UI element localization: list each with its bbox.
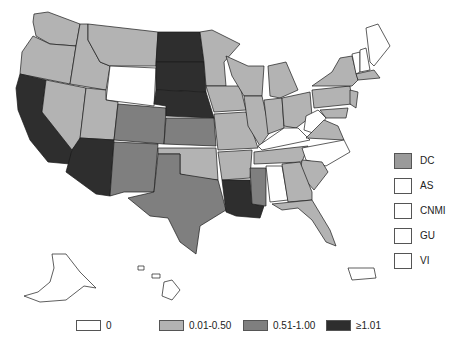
state-new-jersey: [350, 90, 358, 108]
state-montana: [88, 24, 158, 66]
legend-item-high: ≥1.01: [326, 320, 381, 331]
state-wyoming: [106, 66, 156, 106]
legend-swatch: [76, 320, 101, 331]
state-michigan: [268, 62, 298, 98]
legend-label: 0.51-1.00: [273, 320, 315, 331]
legend-swatch: [326, 320, 351, 331]
state-north-dakota: [156, 32, 204, 62]
territory-cnmi: CNMI: [394, 198, 446, 223]
state-maine: [366, 24, 390, 66]
legend-label: ≥1.01: [356, 320, 381, 331]
territory-swatch: [394, 253, 412, 269]
map-legend: 0 0.01-0.50 0.51-1.00 ≥1.01: [0, 320, 454, 340]
legend-swatch: [159, 320, 184, 331]
state-mississippi: [250, 168, 266, 206]
state-kansas: [164, 118, 216, 146]
state-arkansas: [218, 150, 252, 180]
state-new-york: [312, 56, 358, 86]
legend-item-mid: 0.51-1.00: [243, 320, 315, 331]
territory-label: DC: [420, 155, 434, 166]
territory-swatch: [394, 203, 412, 219]
territory-label: CNMI: [420, 205, 446, 216]
legend-label: 0: [106, 320, 112, 331]
territory-as: AS: [394, 173, 446, 198]
territory-label: AS: [420, 180, 433, 191]
state-new-mexico: [110, 142, 158, 196]
legend-swatch: [243, 320, 268, 331]
state-pennsylvania: [312, 86, 352, 108]
territory-gu: GU: [394, 223, 446, 248]
state-hawaii-maui: [152, 274, 160, 278]
territory-legend: DC AS CNMI GU VI: [394, 148, 446, 273]
state-hawaii: [162, 280, 180, 300]
legend-item-low: 0.01-0.50: [159, 320, 231, 331]
territory-label: GU: [420, 230, 435, 241]
state-colorado: [114, 104, 166, 144]
state-florida: [272, 200, 336, 246]
territory-swatch: [394, 178, 412, 194]
us-choropleth-map: [0, 0, 454, 348]
legend-label: 0.01-0.50: [189, 320, 231, 331]
territory-swatch: [394, 153, 412, 169]
legend-item-zero: 0: [76, 320, 112, 331]
territory-vi: VI: [394, 248, 446, 273]
state-south-dakota: [156, 62, 206, 92]
territory-swatch: [394, 228, 412, 244]
state-alaska: [24, 254, 96, 302]
territory-label: VI: [420, 255, 429, 266]
territory-puerto-rico: [348, 268, 376, 280]
territory-dc: DC: [394, 148, 446, 173]
state-hawaii-oahu: [138, 266, 144, 270]
